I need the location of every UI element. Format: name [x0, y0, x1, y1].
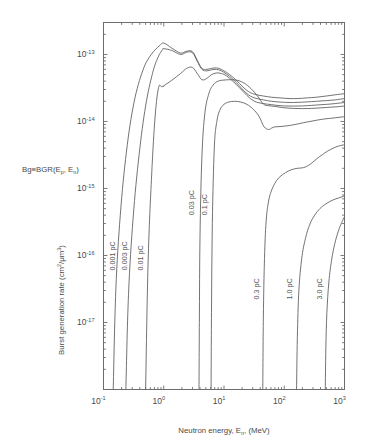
formula-main: Bg≡BGR(E: [22, 165, 61, 174]
curve-label-0-03-pc: 0.03 pC: [187, 190, 196, 215]
y-axis-title-main: Burst generation rate (cm: [57, 267, 66, 355]
formula-annotation: Bg≡BGR(Ep, En): [22, 165, 79, 175]
curve-label-1-0-pc: 1.0 pC: [285, 278, 294, 299]
figure-container: 10-1100101102103 10-1310-1410-1510-1610-…: [0, 0, 373, 447]
curve-label-0-1-pc: 0.1 pC: [200, 194, 209, 215]
formula-close: ): [76, 165, 79, 174]
y-axis-title: Burst generation rate (cm2/μm3): [56, 245, 66, 355]
x-axis-title-tail: , (MeV): [244, 426, 270, 435]
chart-svg: 10-1100101102103 10-1310-1410-1510-1610-…: [0, 0, 373, 447]
curve-label-0-3-pc: 0.3 pC: [252, 278, 261, 299]
curve-label-3-0-pc: 3.0 pC: [315, 278, 324, 299]
x-axis-title-main: Neutron energy, E: [178, 426, 241, 435]
chart-background: [0, 0, 373, 447]
curve-label-0-003-pc: 0.003 pC: [120, 241, 129, 270]
curve-label-0-001-pc: 0.001 pC: [108, 241, 117, 270]
formula-mid: , E: [64, 165, 74, 174]
x-axis-title: Neutron energy, En, (MeV): [178, 426, 270, 436]
y-axis-title-mid: /μm: [57, 251, 66, 264]
curve-label-0-01-pc: 0.01 pC: [136, 245, 145, 270]
y-axis-title-tail: ): [57, 245, 66, 248]
